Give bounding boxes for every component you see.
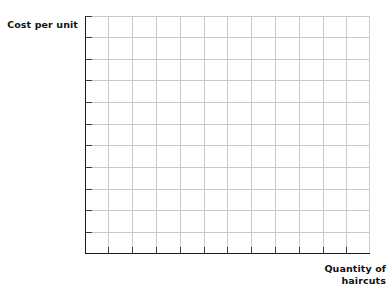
x-axis-label-line-1: Quantity of xyxy=(268,263,386,275)
y-axis-label: Cost per unit xyxy=(0,19,78,30)
plot-area[interactable] xyxy=(85,16,370,254)
vertical-gridlines xyxy=(86,16,370,254)
x-axis-label-line-2: haircuts xyxy=(268,275,386,287)
x-axis-label: Quantity of haircuts xyxy=(268,263,386,287)
grid-svg xyxy=(85,16,370,254)
blank-graph-figure: Cost per unit xyxy=(0,0,391,295)
